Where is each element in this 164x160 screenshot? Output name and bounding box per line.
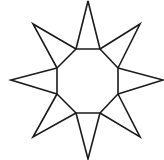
star-point-upper-right bbox=[100, 24, 140, 68]
star-point-lower-left bbox=[33, 94, 76, 137]
star-point-upper-left bbox=[33, 24, 76, 68]
star-point-left bbox=[11, 68, 57, 94]
star-point-bottom bbox=[76, 113, 100, 159]
star-point-top bbox=[76, 1, 100, 49]
eight-pointed-star-diagram bbox=[0, 0, 164, 160]
star-point-right bbox=[118, 68, 163, 94]
center-octagon bbox=[57, 49, 118, 113]
star-point-lower-right bbox=[100, 94, 140, 137]
